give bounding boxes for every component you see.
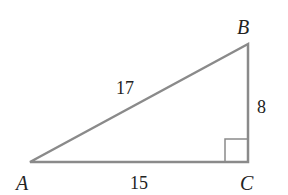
right-angle-marker: [225, 139, 248, 162]
triangle-diagram: B 17 8 A 15 C: [0, 0, 288, 195]
vertex-label-b: B: [237, 16, 249, 38]
side-label-ac: 15: [130, 173, 148, 193]
triangle-canvas: B 17 8 A 15 C: [0, 0, 288, 195]
side-label-ab: 17: [116, 78, 134, 98]
triangle-abc: [30, 44, 248, 162]
vertex-label-a: A: [14, 172, 29, 194]
side-label-bc: 8: [257, 97, 266, 117]
vertex-label-c: C: [240, 172, 254, 194]
